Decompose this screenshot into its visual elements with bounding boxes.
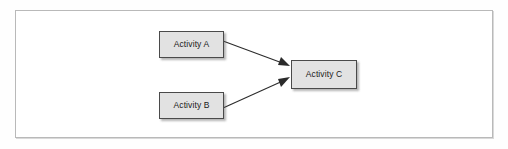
connector-layer: [0, 0, 508, 149]
diagram-canvas: Activity A Activity B Activity C: [15, 10, 493, 138]
node-activity-a-label: Activity A: [174, 40, 209, 49]
node-activity-c-label: Activity C: [306, 70, 342, 79]
edge-activity-a-to-activity-c[interactable]: [223, 41, 290, 66]
node-activity-b-label: Activity B: [174, 101, 210, 110]
diagram-screenshot: Activity A Activity B Activity C: [0, 0, 508, 149]
node-activity-b[interactable]: Activity B: [159, 92, 224, 119]
arrowhead-icon: [278, 77, 290, 87]
node-activity-c[interactable]: Activity C: [291, 60, 357, 89]
edge-activity-b-to-activity-c[interactable]: [223, 77, 290, 108]
node-activity-a[interactable]: Activity A: [159, 31, 224, 58]
arrowhead-icon: [278, 57, 290, 66]
